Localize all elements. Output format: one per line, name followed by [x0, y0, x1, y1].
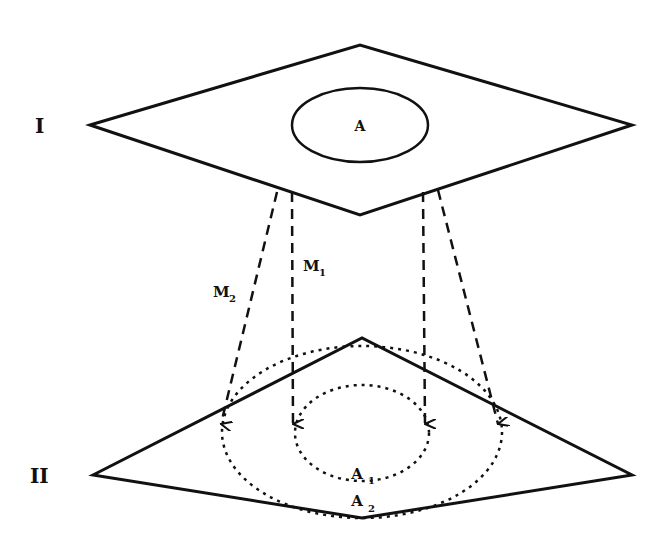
svg-text:2: 2 — [229, 293, 236, 304]
mapping-m1-left-arrow — [292, 192, 293, 424]
mapping-m2-label: M 2 — [213, 283, 236, 304]
svg-text:1: 1 — [319, 267, 326, 278]
plane-i-label: I — [35, 114, 44, 138]
region-a1-label: A 1 — [350, 465, 375, 486]
svg-text:1: 1 — [368, 475, 375, 486]
mapping-m1-right-arrow — [423, 192, 425, 424]
svg-text:M: M — [303, 257, 320, 275]
diagram-svg: A I II A 1 A 2 M 1 M 2 — [0, 0, 665, 537]
mapping-diagram: A I II A 1 A 2 M 1 M 2 — [0, 0, 665, 537]
mapping-m1-label: M 1 — [303, 257, 326, 278]
region-a2-label: A 2 — [350, 492, 375, 514]
plane-ii — [93, 338, 632, 518]
plane-ii-label: II — [30, 464, 49, 488]
mapping-m2-right-arrow — [438, 190, 498, 424]
svg-text:M: M — [213, 283, 230, 301]
svg-text:A: A — [350, 465, 363, 483]
svg-text:A: A — [350, 492, 363, 510]
svg-text:2: 2 — [368, 503, 375, 514]
region-a-label: A — [354, 118, 367, 134]
mapping-m2-left-arrow — [221, 192, 277, 424]
